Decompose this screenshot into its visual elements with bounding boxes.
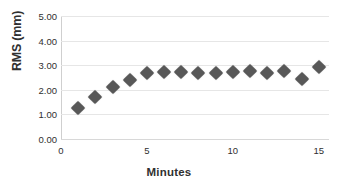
data-point-marker xyxy=(260,66,274,80)
data-point-marker xyxy=(191,66,205,80)
data-point-marker xyxy=(157,65,171,79)
y-axis-tick-label: 1.00 xyxy=(23,109,57,120)
data-point-marker xyxy=(71,100,85,114)
data-point-marker xyxy=(123,73,137,87)
data-point-marker xyxy=(174,65,188,79)
plot-area xyxy=(61,16,329,139)
rms-vs-minutes-chart: RMS (mm) 0.001.002.003.004.005.00 051015… xyxy=(0,0,338,188)
y-axis-tick-label: 2.00 xyxy=(23,84,57,95)
data-point-marker xyxy=(105,80,119,94)
y-axis-tick-labels: 0.001.002.003.004.005.00 xyxy=(20,16,57,139)
data-point-marker xyxy=(209,66,223,80)
gridline xyxy=(61,90,329,91)
y-axis-tick-label: 0.00 xyxy=(23,134,57,145)
data-point-marker xyxy=(312,60,326,74)
gridline xyxy=(61,139,329,140)
gridline xyxy=(61,65,329,66)
gridline xyxy=(61,41,329,42)
data-point-marker xyxy=(294,72,308,86)
gridline xyxy=(61,114,329,115)
x-axis-tick-label: 5 xyxy=(135,145,159,156)
data-point-marker xyxy=(88,90,102,104)
y-axis-tick-label: 4.00 xyxy=(23,35,57,46)
x-axis-tick-label: 10 xyxy=(221,145,245,156)
x-axis-tick-label: 0 xyxy=(49,145,73,156)
data-point-marker xyxy=(140,66,154,80)
x-axis-tick-labels: 051015 xyxy=(61,145,329,159)
gridline xyxy=(61,16,329,17)
x-axis-tick-label: 15 xyxy=(307,145,331,156)
y-axis-tick-label: 3.00 xyxy=(23,60,57,71)
y-axis-tick-label: 5.00 xyxy=(23,11,57,22)
x-axis-title: Minutes xyxy=(0,166,338,178)
data-point-marker xyxy=(226,65,240,79)
data-point-marker xyxy=(277,64,291,78)
